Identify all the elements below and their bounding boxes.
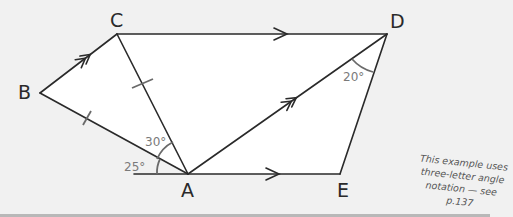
angle-label-30: 30°	[145, 135, 166, 149]
vertex-label-e: E	[337, 179, 349, 201]
vertex-label-b: B	[18, 81, 31, 103]
vertex-label-a: A	[181, 179, 194, 201]
angle-arc-25	[157, 159, 160, 174]
vertex-label-d: D	[390, 10, 405, 32]
annotation-note: This example uses three-letter angle not…	[410, 151, 513, 213]
bottom-divider	[0, 214, 490, 217]
figure-fill	[40, 34, 387, 174]
vertex-label-c: C	[110, 9, 123, 31]
angle-label-25: 25°	[124, 160, 145, 174]
angle-label-20: 20°	[343, 70, 364, 84]
